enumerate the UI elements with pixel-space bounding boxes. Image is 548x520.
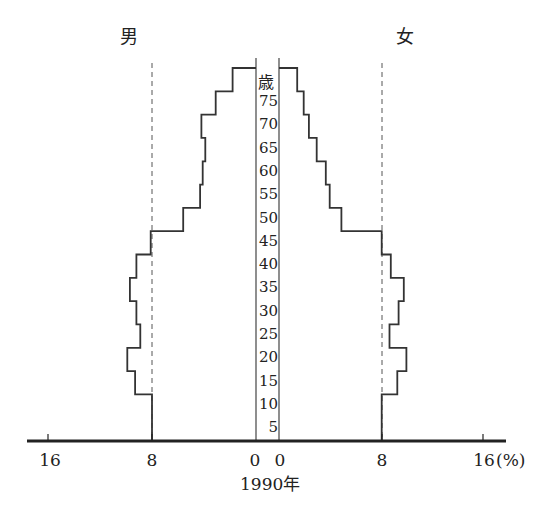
age-label: 65 bbox=[256, 139, 278, 157]
female-label: 女 bbox=[396, 22, 414, 48]
tick-label-female-8: 8 bbox=[377, 450, 388, 470]
age-label: 50 bbox=[256, 209, 278, 227]
tick-label-female-16: 16 bbox=[473, 450, 495, 470]
age-label: 45 bbox=[256, 232, 278, 250]
female-step-outline bbox=[279, 68, 406, 441]
age-label: 25 bbox=[256, 325, 278, 343]
age-label: 55 bbox=[256, 185, 278, 203]
tick-label-male-0: 0 bbox=[250, 450, 261, 470]
age-label: 40 bbox=[256, 255, 278, 273]
male-label: 男 bbox=[120, 22, 138, 48]
age-label: 70 bbox=[256, 115, 278, 133]
age-label: 75 bbox=[256, 92, 278, 110]
age-label: 60 bbox=[256, 162, 278, 180]
tick-label-male-16: 16 bbox=[39, 450, 61, 470]
percent-unit-label: (%) bbox=[496, 450, 525, 470]
age-label: 15 bbox=[256, 372, 278, 390]
age-label: 20 bbox=[256, 348, 278, 366]
age-label: 30 bbox=[256, 302, 278, 320]
year-label: 1990年 bbox=[240, 470, 300, 495]
tick-label-female-0: 0 bbox=[275, 450, 286, 470]
tick-label-male-8: 8 bbox=[147, 450, 158, 470]
age-label: 10 bbox=[256, 395, 278, 413]
age-label: 35 bbox=[256, 278, 278, 296]
age-label: 5 bbox=[256, 418, 278, 436]
male-step-outline bbox=[127, 68, 256, 441]
age-unit-label: 歳 bbox=[258, 69, 274, 93]
